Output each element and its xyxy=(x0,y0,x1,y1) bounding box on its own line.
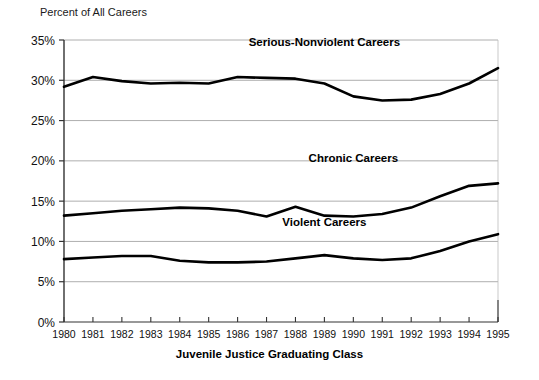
x-tick-label: 1994 xyxy=(457,328,481,340)
x-axis-title: Juvenile Justice Graduating Class xyxy=(0,348,539,360)
gridlines xyxy=(64,40,498,282)
series-annotation-label: Violent Careers xyxy=(282,216,366,228)
series-line xyxy=(64,183,498,216)
x-tick-label: 1986 xyxy=(226,328,250,340)
x-tick-label: 1983 xyxy=(139,328,163,340)
y-axis-ticks: 0%5%10%15%20%25%30%35% xyxy=(31,34,64,330)
x-tick-label: 1995 xyxy=(486,328,510,340)
series-annotation-label: Chronic Careers xyxy=(309,152,398,164)
x-axis-ticks: 1980198119821983198419851986198719881989… xyxy=(52,317,510,340)
x-tick-label: 1989 xyxy=(313,328,337,340)
x-tick-label: 1993 xyxy=(428,328,452,340)
series-line xyxy=(64,68,498,100)
y-tick-label: 25% xyxy=(31,114,55,128)
line-chart-plot: 0%5%10%15%20%25%30%35% 19801981198219831… xyxy=(0,0,539,380)
chart-container: Percent of All Careers 0%5%10%15%20%25%3… xyxy=(0,0,539,380)
x-tick-label: 1984 xyxy=(168,328,192,340)
x-tick-label: 1980 xyxy=(52,328,76,340)
y-tick-label: 5% xyxy=(38,275,56,289)
x-tick-label: 1991 xyxy=(371,328,395,340)
x-tick-label: 1981 xyxy=(81,328,105,340)
x-tick-label: 1985 xyxy=(197,328,221,340)
y-tick-label: 20% xyxy=(31,154,55,168)
x-tick-label: 1988 xyxy=(284,328,308,340)
x-tick-label: 1987 xyxy=(255,328,279,340)
x-tick-label: 1992 xyxy=(400,328,424,340)
series-annotation-label: Serious-Nonviolent Careers xyxy=(249,36,400,48)
series-line xyxy=(64,234,498,262)
y-tick-label: 35% xyxy=(31,34,55,48)
y-tick-label: 15% xyxy=(31,195,55,209)
x-tick-label: 1982 xyxy=(110,328,134,340)
y-tick-label: 10% xyxy=(31,235,55,249)
y-tick-label: 30% xyxy=(31,74,55,88)
data-series xyxy=(64,68,498,262)
series-labels: Serious-Nonviolent CareersChronic Career… xyxy=(249,36,400,228)
x-tick-label: 1990 xyxy=(342,328,366,340)
